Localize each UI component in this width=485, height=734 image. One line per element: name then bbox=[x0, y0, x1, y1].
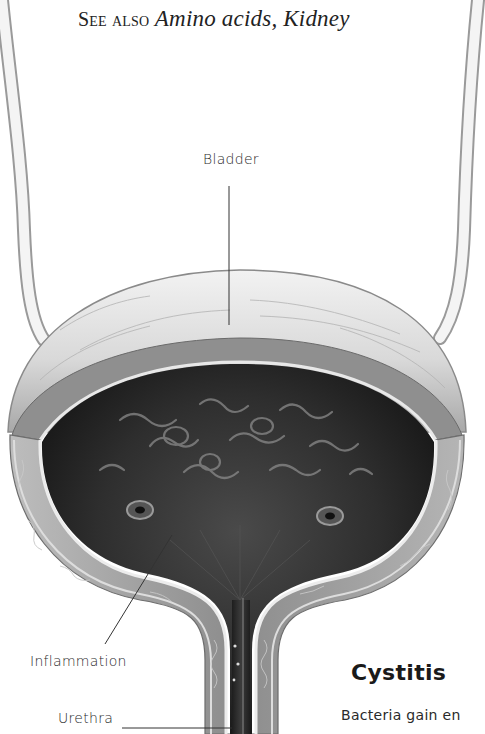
see-also-prefix: See also bbox=[78, 8, 149, 30]
see-also-links[interactable]: Amino acids, Kidney bbox=[155, 6, 350, 31]
right-ureter bbox=[440, 0, 478, 338]
article-body: Bacteria gain en bbox=[341, 707, 461, 723]
label-bladder: Bladder bbox=[203, 151, 259, 167]
label-inflammation: Inflammation bbox=[30, 653, 127, 669]
see-also-reference: See also Amino acids, Kidney bbox=[78, 6, 350, 32]
article-title: Cystitis bbox=[351, 660, 446, 685]
label-urethra: Urethra bbox=[58, 710, 113, 726]
left-ureter bbox=[2, 0, 44, 340]
bladder-illustration bbox=[0, 0, 485, 734]
